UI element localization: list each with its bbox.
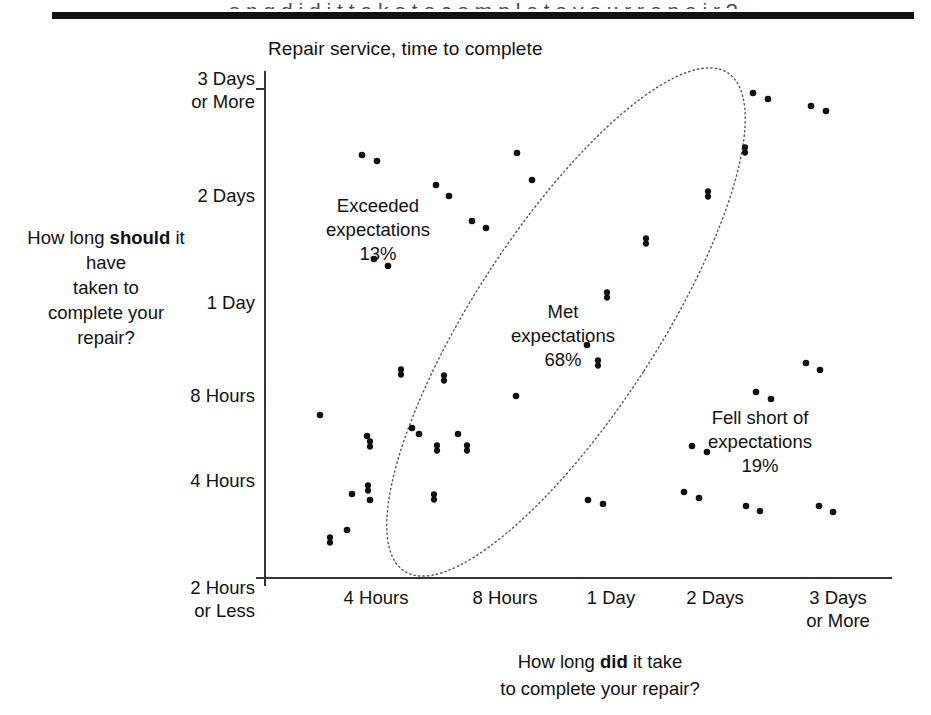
- data-point: [643, 235, 649, 246]
- data-point: [431, 491, 437, 502]
- x-axis-title: How long did it take to complete your re…: [350, 648, 850, 702]
- data-point: [753, 389, 760, 396]
- data-point: [600, 501, 607, 508]
- y-axis-tick: [256, 88, 265, 90]
- data-point: [696, 495, 703, 502]
- x-axis-title-line1: How long: [518, 651, 600, 672]
- y-tick-label-2-hours: 2 Hours or Less: [125, 576, 255, 622]
- data-point: [830, 509, 837, 516]
- y-tick-label-8-hours: 8 Hours: [125, 384, 255, 407]
- data-point: [464, 442, 470, 453]
- y-tick-label-3-days: 3 Days or More: [125, 67, 255, 113]
- data-point: [365, 482, 371, 493]
- data-point: [681, 489, 688, 496]
- data-point: [433, 182, 440, 189]
- y-tick-label-2-days: 2 Days: [125, 184, 255, 207]
- data-point: [441, 372, 447, 383]
- data-point: [604, 289, 610, 300]
- annotation-exceeded-expectations: Exceeded expectations 13%: [268, 194, 488, 266]
- data-point: [327, 534, 333, 545]
- y-axis-title-line3: complete your: [48, 302, 164, 323]
- data-point: [374, 158, 381, 165]
- data-point: [817, 367, 824, 374]
- y-axis-title-line4: repair?: [77, 327, 135, 348]
- data-point: [455, 431, 462, 438]
- x-axis-tick: [264, 577, 266, 586]
- data-point: [317, 412, 324, 419]
- data-point: [585, 497, 592, 504]
- data-point: [529, 177, 536, 184]
- y-tick-label-4-hours: 4 Hours: [125, 469, 255, 492]
- chart-title: Repair service, time to complete: [268, 38, 543, 60]
- data-point: [705, 188, 711, 199]
- data-point: [823, 108, 830, 115]
- data-point: [367, 497, 374, 504]
- cut-off-text-above-rule: o n g d i d i t t a k e t o c o m p l e …: [52, 0, 914, 9]
- data-point: [757, 508, 764, 515]
- y-axis-title-emphasis: should: [110, 227, 171, 248]
- annotation-fell-short-expectations: Fell short of expectations 19%: [650, 406, 870, 478]
- x-axis-line: [264, 577, 892, 579]
- annotation-met-expectations: Met expectations 68%: [453, 300, 673, 372]
- data-point: [750, 90, 757, 97]
- data-point: [398, 366, 404, 377]
- data-point: [808, 103, 815, 110]
- x-tick-label-4-hours: 4 Hours: [301, 586, 451, 609]
- x-axis-title-line2: to complete your repair?: [500, 678, 700, 699]
- y-axis-title-line2: taken to: [73, 277, 139, 298]
- y-axis-line: [264, 71, 266, 579]
- x-axis-title-emphasis: did: [600, 651, 628, 672]
- data-point: [514, 150, 521, 157]
- data-point: [513, 393, 520, 400]
- data-point: [742, 144, 748, 155]
- data-point: [434, 442, 440, 453]
- data-point: [765, 96, 772, 103]
- y-axis-title-line1: How long: [27, 227, 109, 248]
- x-axis-title-line1b: it take: [628, 651, 683, 672]
- x-tick-label-3-days: 3 Days or More: [763, 586, 913, 632]
- data-point: [367, 438, 373, 449]
- data-point: [768, 396, 775, 403]
- y-axis-title: How long should it have taken to complet…: [16, 225, 196, 350]
- top-divider-rule: [52, 12, 914, 19]
- data-point: [416, 431, 423, 438]
- data-point: [364, 433, 371, 440]
- data-point: [344, 527, 351, 534]
- data-point: [409, 425, 416, 432]
- data-point: [803, 360, 810, 367]
- data-point: [816, 503, 823, 510]
- data-point: [349, 491, 356, 498]
- data-point: [743, 503, 750, 510]
- data-point: [359, 152, 366, 159]
- chart-page: o n g d i d i t t a k e t o c o m p l e …: [0, 0, 931, 715]
